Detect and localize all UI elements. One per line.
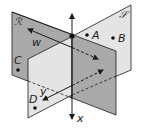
point-b-label: B (118, 32, 126, 45)
point-c-label: C (14, 54, 22, 67)
intersection-point (69, 33, 74, 38)
vector-y-label: y (39, 85, 47, 98)
point-d-label: D (29, 93, 37, 106)
vector-w-label: w (32, 36, 41, 49)
intersecting-planes-diagram: ℛ 𝒮 A B C D w y x (0, 0, 142, 128)
point-a-dot (85, 33, 89, 37)
point-b-dot (111, 36, 115, 40)
plane-r-label: ℛ (14, 16, 23, 27)
point-d-dot (33, 106, 37, 110)
point-a-label: A (91, 29, 100, 42)
point-c-dot (16, 68, 20, 72)
axis-x-label: x (76, 112, 84, 125)
